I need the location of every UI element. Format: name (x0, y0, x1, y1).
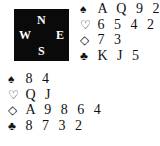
south-diamonds-cards: A 9 8 6 4 (26, 102, 104, 117)
diamond-icon: ◇ (8, 103, 22, 119)
north-spades-cards: A Q 9 2 (98, 1, 160, 16)
south-hearts-row: ♡ Q J (8, 87, 104, 103)
north-hearts-cards: 6 5 4 2 (98, 17, 158, 32)
north-clubs-cards: K J 5 (98, 48, 143, 63)
south-hand: ♠ 8 4 ♡ Q J ◇ A 9 8 6 4 ♣ 8 7 3 2 (8, 71, 104, 133)
south-spades-cards: 8 4 (26, 71, 53, 86)
north-diamonds-cards: 7 3 (98, 32, 125, 47)
north-diamonds-row: ◇ 7 3 (80, 32, 159, 48)
compass-north: N (37, 14, 46, 26)
club-icon: ♣ (80, 49, 94, 65)
compass-table: N W E S (14, 9, 69, 61)
spade-icon: ♠ (8, 72, 22, 88)
spade-icon: ♠ (80, 2, 94, 18)
club-icon: ♣ (8, 119, 22, 135)
north-hand: ♠ A Q 9 2 ♡ 6 5 4 2 ◇ 7 3 ♣ K J 5 (80, 1, 159, 63)
south-diamonds-row: ◇ A 9 8 6 4 (8, 102, 104, 118)
compass-south: S (38, 45, 45, 57)
south-clubs-row: ♣ 8 7 3 2 (8, 118, 104, 134)
heart-icon: ♡ (80, 18, 94, 34)
compass-west: W (19, 29, 31, 41)
south-clubs-cards: 8 7 3 2 (26, 118, 86, 133)
south-spades-row: ♠ 8 4 (8, 71, 104, 87)
diamond-icon: ◇ (80, 33, 94, 49)
north-hearts-row: ♡ 6 5 4 2 (80, 17, 159, 33)
north-spades-row: ♠ A Q 9 2 (80, 1, 159, 17)
heart-icon: ♡ (8, 88, 22, 104)
north-clubs-row: ♣ K J 5 (80, 48, 159, 64)
south-hearts-cards: Q J (26, 87, 54, 102)
compass-east: E (56, 29, 64, 41)
